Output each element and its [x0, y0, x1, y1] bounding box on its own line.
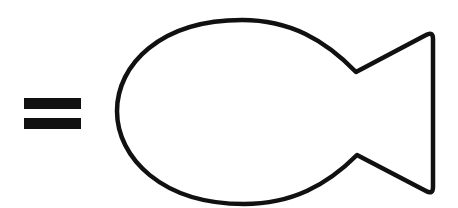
- fish-icon: [0, 0, 458, 208]
- fish-outline: [117, 20, 433, 204]
- figure-canvas: [0, 0, 458, 208]
